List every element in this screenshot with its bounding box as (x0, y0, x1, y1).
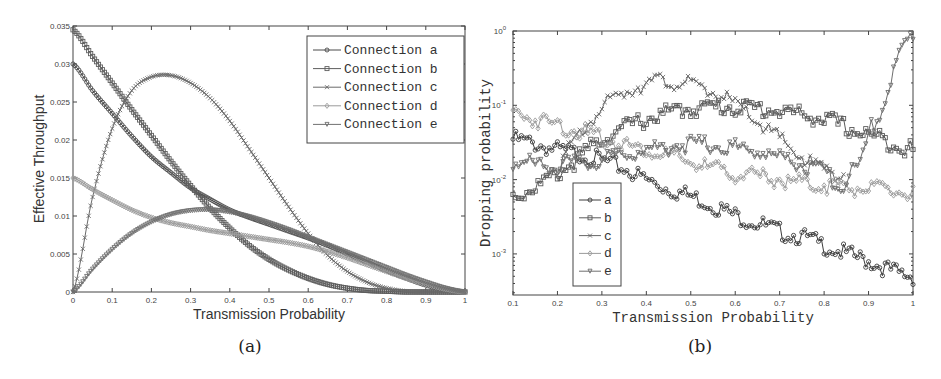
x-tick-label: 0.4 (641, 299, 653, 308)
y-tick-label: 0.005 (50, 250, 71, 259)
figure-caption: (a) (238, 336, 261, 356)
x-tick-label: 0.3 (185, 296, 197, 305)
x-tick-label: 0.6 (303, 296, 315, 305)
x-tick-label: 1 (911, 299, 916, 308)
y-axis-label: Dropping probability (478, 79, 494, 247)
legend-entry: Connection c (344, 80, 438, 95)
y-tick-label: 0 (66, 288, 71, 297)
y-tick-label: 0.015 (50, 174, 71, 183)
legend: Connection aConnection bConnection cConn… (307, 36, 464, 143)
x-tick-label: 0.4 (224, 296, 236, 305)
series-a (511, 129, 915, 286)
x-tick-label: 0.7 (342, 296, 354, 305)
legend-entry: a (604, 193, 612, 208)
y-tick-label: 0.02 (54, 136, 70, 145)
y-axis-label: Effective Throughput (31, 95, 47, 224)
legend-entry: d (604, 246, 612, 261)
x-tick-label: 0.1 (507, 299, 519, 308)
x-tick-label: 0.1 (107, 296, 119, 305)
chart-a: 00.10.20.30.40.50.60.70.80.9100.0050.010… (31, 22, 468, 356)
x-tick-label: 0.7 (774, 299, 786, 308)
y-tick-label: 100 (494, 25, 507, 36)
series-d (511, 107, 915, 202)
x-tick-label: 0.9 (420, 296, 432, 305)
y-tick-label: 0.01 (54, 212, 70, 221)
x-tick-label: 0.2 (552, 299, 564, 308)
x-tick-label: 0.8 (819, 299, 831, 308)
x-tick-label: 0 (71, 296, 76, 305)
x-axis-label: Transmission Probability (193, 306, 345, 322)
legend-entry: Connection d (344, 99, 438, 114)
x-tick-label: 0.6 (730, 299, 742, 308)
legend-entry: Connection a (344, 43, 438, 58)
y-tick-label: 0.025 (50, 98, 71, 107)
x-tick-label: 0.5 (263, 296, 275, 305)
x-tick-label: 0.5 (685, 299, 697, 308)
legend-entry: e (604, 264, 612, 279)
chart-b: 0.10.20.30.40.50.60.70.80.9110-310-210-1… (478, 25, 916, 356)
figure: 00.10.20.30.40.50.60.70.80.9100.0050.010… (0, 0, 941, 379)
x-axis-label: Transmission Probability (612, 310, 814, 326)
legend: abcde (573, 183, 621, 286)
y-tick-label: 0.03 (54, 60, 70, 69)
legend-entry: Connection b (344, 62, 438, 77)
y-tick-label: 10-3 (492, 248, 507, 259)
series-e (511, 31, 915, 193)
legend-entry: b (604, 211, 612, 226)
x-tick-label: 0.8 (381, 296, 393, 305)
y-tick-label: 0.035 (50, 22, 71, 31)
x-tick-label: 1 (463, 296, 468, 305)
legend-entry: Connection e (344, 117, 438, 132)
figure-caption: (b) (688, 336, 712, 356)
x-tick-label: 0.9 (863, 299, 875, 308)
legend-entry: c (604, 229, 612, 244)
x-tick-label: 0.2 (146, 296, 158, 305)
x-tick-label: 0.3 (596, 299, 608, 308)
